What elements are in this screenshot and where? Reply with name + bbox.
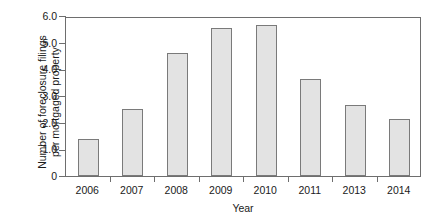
x-axis-tick-label: 2011 bbox=[286, 184, 334, 196]
bar bbox=[256, 25, 277, 176]
x-axis-title: Year bbox=[65, 202, 421, 214]
x-axis-tick-label: 2009 bbox=[197, 184, 245, 196]
y-axis-tick-label: 5.0 bbox=[42, 37, 57, 49]
bar bbox=[122, 109, 143, 176]
bar-series bbox=[66, 18, 420, 176]
y-axis-tick bbox=[59, 96, 66, 97]
y-axis-tick bbox=[59, 123, 66, 124]
y-axis-tick bbox=[59, 150, 66, 151]
y-axis-tick-label: 1.0 bbox=[42, 143, 57, 155]
y-axis-tick-label: 3.0 bbox=[42, 90, 57, 102]
y-axis-tick bbox=[59, 43, 66, 44]
bar bbox=[78, 139, 99, 176]
x-axis-tick-label: 2007 bbox=[108, 184, 156, 196]
y-axis-tick-label: 0 bbox=[51, 170, 57, 182]
bar-chart-figure: Number of foreclosure filings per mortga… bbox=[0, 0, 440, 221]
x-axis-tick-label: 2010 bbox=[241, 184, 289, 196]
bar bbox=[345, 105, 366, 176]
plot-area bbox=[65, 17, 421, 177]
y-axis-tick bbox=[59, 176, 66, 177]
y-axis-tick bbox=[59, 16, 66, 17]
x-axis-tick bbox=[332, 177, 333, 182]
x-axis-tick bbox=[199, 177, 200, 182]
y-axis-title-wrapper: Number of foreclosure filings per mortga… bbox=[0, 0, 46, 200]
x-axis-tick bbox=[243, 177, 244, 182]
x-axis-tick bbox=[377, 177, 378, 182]
x-axis-tick-label: 2008 bbox=[152, 184, 200, 196]
y-axis-tick-label: 6.0 bbox=[42, 10, 57, 22]
y-axis-tick-label: 2.0 bbox=[42, 117, 57, 129]
bar bbox=[389, 119, 410, 176]
x-axis-tick-label: 2013 bbox=[330, 184, 378, 196]
x-axis-tick bbox=[288, 177, 289, 182]
y-axis-tick bbox=[59, 70, 66, 71]
x-axis-tick-label: 2006 bbox=[63, 184, 111, 196]
bar bbox=[211, 28, 232, 176]
y-axis-tick-label: 4.0 bbox=[42, 63, 57, 75]
x-axis-tick bbox=[110, 177, 111, 182]
x-axis-tick-label: 2014 bbox=[375, 184, 423, 196]
x-axis-tick bbox=[154, 177, 155, 182]
bar bbox=[300, 79, 321, 176]
bar bbox=[167, 53, 188, 176]
